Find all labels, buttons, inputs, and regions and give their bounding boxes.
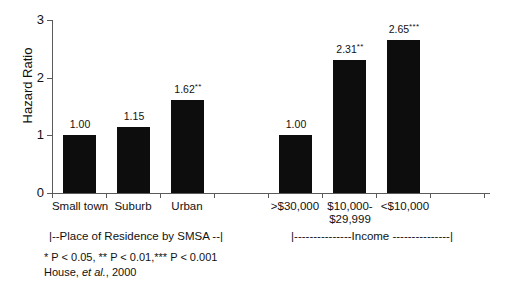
bar-value-text-income-under-10000: 2.65 [389, 23, 409, 35]
bar-suburb [117, 127, 150, 193]
footnote-significance-legend: * P < 0.05, ** P < 0.01,*** P < 0.001 [44, 250, 217, 264]
y-axis-label-3: 3 [30, 13, 44, 26]
x-axis-line [52, 193, 490, 194]
bar-urban [171, 100, 204, 193]
citation-author: House, [44, 266, 82, 278]
bar-value-text-income-10000-29999: 2.31 [336, 43, 356, 55]
x-axis-category-suburb: Suburb [101, 200, 165, 213]
bar-value-income-10000-29999: 2.31** [318, 44, 382, 55]
bar-value-text-small-town: 1.00 [70, 118, 90, 130]
y-axis-tick-2 [47, 78, 52, 79]
bar-income-over-30000 [279, 135, 312, 193]
x-axis-tick-0 [52, 193, 53, 198]
y-axis-tick-1 [47, 135, 52, 136]
y-axis-label-3-wrap: 3 [28, 13, 44, 26]
bar-sig-urban: ** [195, 82, 202, 91]
bar-value-income-over-30000: 1.00 [266, 119, 326, 130]
x-axis-tick-8 [484, 193, 485, 198]
citation-etal: et al. [82, 266, 106, 278]
x-axis-tick-5 [322, 193, 323, 198]
x-axis-tick-1 [106, 193, 107, 198]
x-axis-tick-6 [376, 193, 377, 198]
x-axis-tick-3 [214, 193, 215, 198]
bar-sig-income-10000-29999: ** [357, 42, 364, 51]
bar-value-text-urban: 1.62 [174, 83, 194, 95]
hazard-ratio-bar-chart: 3 2 1 0 Hazard Ratio 1.00 1.15 1.62** 1.… [0, 0, 506, 283]
x-axis-tick-7 [430, 193, 431, 198]
citation-year: , 2000 [106, 266, 137, 278]
y-axis-line [52, 20, 53, 193]
group-bracket-residence: |--Place of Residence by SMSA --| [36, 230, 236, 243]
bar-income-10000-29999 [333, 60, 366, 193]
bar-income-under-10000 [387, 40, 420, 193]
group-bracket-income: |---------------Income ---------------| [262, 230, 482, 243]
y-axis-label-0-wrap: 0 [28, 186, 44, 199]
footnote-citation: House, et al., 2000 [44, 265, 136, 279]
bar-value-income-under-10000: 2.65*** [371, 24, 437, 35]
bar-small-town [63, 135, 96, 193]
bar-value-text-suburb: 1.15 [124, 110, 144, 122]
x-axis-tick-4 [268, 193, 269, 198]
bar-value-urban: 1.62** [156, 84, 220, 95]
y-axis-tick-3 [47, 20, 52, 21]
x-axis-category-urban: Urban [157, 200, 217, 213]
bar-value-text-income-over-30000: 1.00 [286, 118, 306, 130]
x-axis-tick-2 [160, 193, 161, 198]
bar-value-small-town: 1.00 [50, 119, 110, 130]
y-axis-title: Hazard Ratio [20, 26, 35, 146]
y-axis-label-0: 0 [30, 186, 44, 199]
x-axis-category-income-under-10000: <$10,000 [373, 200, 437, 213]
bar-value-suburb: 1.15 [104, 111, 164, 122]
bar-sig-income-under-10000: *** [409, 22, 419, 31]
